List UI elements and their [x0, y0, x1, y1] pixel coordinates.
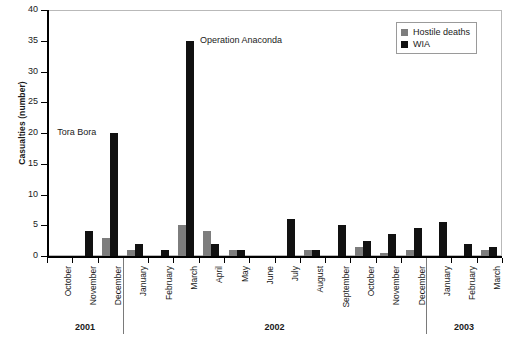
bar-wia-5 [186, 41, 194, 256]
chart-figure: Casualties (number) 0510152025303540 Tor… [0, 0, 508, 342]
y-tick-label-0: 0 [8, 251, 38, 260]
x-tick-11 [325, 258, 326, 263]
year-label-2001: 2001 [47, 322, 123, 332]
annotation-operation-anaconda: Operation Anaconda [200, 35, 282, 45]
chart-legend: Hostile deathsWIA [396, 22, 477, 54]
x-tick-2 [98, 258, 99, 263]
x-tick-17 [477, 258, 478, 263]
bar-wia-17 [489, 247, 497, 256]
y-tick-label-5: 5 [8, 220, 38, 229]
bar-wia-13 [388, 234, 396, 256]
x-tick-12 [350, 258, 351, 263]
bar-wia-6 [211, 244, 219, 256]
x-tick-9 [275, 258, 276, 263]
x-tick-14 [401, 258, 402, 263]
legend-item-wia: WIA [401, 38, 470, 50]
bar-hostile-deaths-5 [178, 225, 186, 256]
bar-hostile-deaths-6 [203, 231, 211, 256]
x-tick-6 [199, 258, 200, 263]
bar-wia-14 [414, 228, 422, 256]
year-label-2003: 2003 [426, 322, 502, 332]
legend-swatch-icon [401, 41, 408, 48]
bar-wia-16 [464, 244, 472, 256]
y-tick-label-25: 25 [8, 97, 38, 106]
x-tick-10 [300, 258, 301, 263]
x-tick-0 [47, 258, 48, 263]
x-tick-4 [148, 258, 149, 263]
bar-wia-3 [135, 244, 143, 256]
bar-wia-9 [287, 219, 295, 256]
y-tick-label-20: 20 [8, 128, 38, 137]
bar-wia-15 [439, 222, 447, 256]
x-tick-1 [72, 258, 73, 263]
legend-label: WIA [413, 40, 430, 49]
bar-wia-11 [338, 225, 346, 256]
y-tick-label-40: 40 [8, 5, 38, 14]
bar-wia-2 [110, 133, 118, 256]
year-label-2002: 2002 [123, 322, 426, 332]
y-tick-label-35: 35 [8, 36, 38, 45]
x-tick-7 [224, 258, 225, 263]
y-tick-label-30: 30 [8, 67, 38, 76]
y-tick-label-10: 10 [8, 190, 38, 199]
legend-swatch-icon [401, 29, 408, 36]
x-tick-8 [249, 258, 250, 263]
x-tick-13 [376, 258, 377, 263]
x-tick-18 [502, 258, 503, 263]
bar-wia-1 [85, 231, 93, 256]
y-tick-label-15: 15 [8, 159, 38, 168]
x-tick-16 [451, 258, 452, 263]
annotation-tora-bora: Tora Bora [57, 127, 96, 137]
legend-item-hostile-deaths: Hostile deaths [401, 26, 470, 38]
bar-wia-12 [363, 241, 371, 256]
x-tick-5 [173, 258, 174, 263]
bar-hostile-deaths-2 [102, 238, 110, 256]
bar-hostile-deaths-12 [355, 247, 363, 256]
legend-label: Hostile deaths [413, 28, 470, 37]
